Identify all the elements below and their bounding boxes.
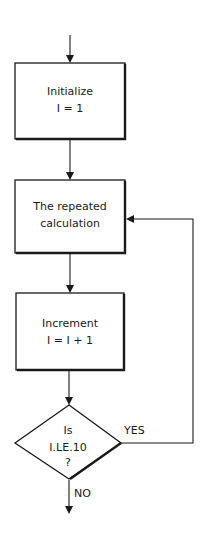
arrow-yes-loop: YES (121, 215, 193, 443)
node-increment: Increment I = I + 1 (16, 293, 124, 370)
node-increment-line-2: I = I + 1 (47, 334, 93, 347)
node-repeated-calculation: The repeated calculation (15, 180, 125, 253)
entry-arrow (66, 35, 74, 63)
node-initialize-line-1: Initialize (47, 85, 93, 98)
arrow-incr-to-test (65, 371, 73, 405)
node-initialize-line-2: I = 1 (57, 102, 83, 115)
node-decision-line-1: Is (64, 424, 73, 437)
arrow-no-exit: NO (65, 480, 91, 514)
node-calc-line-1: The repeated (32, 200, 107, 213)
flowchart: Initialize I = 1 The repeated calculatio… (0, 0, 206, 539)
arrow-init-to-calc (66, 140, 74, 180)
node-decision-line-2: I.LE.10 (49, 441, 86, 454)
yes-label: YES (123, 424, 145, 437)
arrow-calc-to-incr (66, 254, 74, 293)
node-decision-line-3: ? (65, 456, 71, 469)
node-initialize: Initialize I = 1 (15, 63, 125, 139)
node-increment-line-1: Increment (42, 317, 99, 330)
node-decision: Is I.LE.10 ? (15, 405, 121, 479)
node-calc-line-2: calculation (40, 217, 100, 230)
no-label: NO (74, 487, 91, 500)
